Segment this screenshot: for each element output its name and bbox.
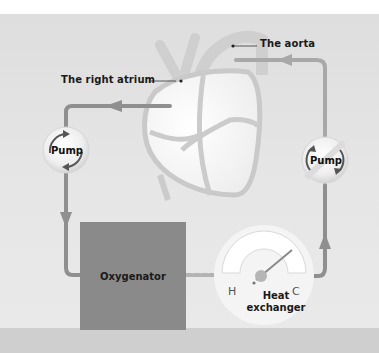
oxygenator-label: Oxygenator [100, 271, 166, 282]
heat-exchanger-label-line2: exchanger [236, 302, 316, 314]
right-pump-label: Pump [310, 155, 342, 166]
arrow-up-icon [319, 233, 331, 249]
circuit-graphic [0, 0, 379, 353]
heat-exchanger-label-line1: Heat [236, 290, 316, 302]
arrow-down-icon [60, 212, 72, 228]
right-atrium-label: The right atrium [61, 74, 155, 85]
arrow-left-icon [105, 100, 122, 112]
heat-exchanger-label: Heat exchanger [236, 290, 316, 314]
oxygenator-box: Oxygenator [80, 222, 186, 330]
aorta-label: The aorta [260, 38, 315, 49]
left-pump-label: Pump [51, 145, 83, 156]
arrow-left-aorta-icon [277, 54, 292, 66]
